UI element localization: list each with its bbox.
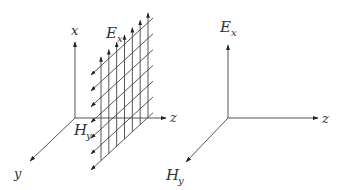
h-label-sub: y [85, 130, 92, 141]
hy-axis-arrow [186, 118, 228, 162]
x-axis-label: x [71, 23, 79, 38]
h-field-label: H y [73, 121, 92, 141]
h-field-arrow [91, 65, 153, 122]
h-field-arrow [91, 81, 153, 138]
h-field-arrow [91, 97, 153, 154]
em-wave-diagram: x z y E x H y E x z H y [0, 0, 347, 190]
ex-label-main: E [219, 18, 231, 36]
z-label-right: z [321, 111, 329, 126]
e-field-label: E x [105, 24, 123, 44]
left-figure: x z y E x H y [13, 13, 177, 181]
hy-label-right: H y [165, 166, 184, 186]
h-field-arrow [91, 50, 153, 107]
e-label-sub: x [117, 33, 123, 44]
ex-label-right: E x [219, 18, 237, 38]
hy-label-sub: y [177, 175, 184, 186]
ex-label-sub: x [231, 27, 237, 38]
h-field-arrow [91, 18, 153, 75]
z-axis-label: z [169, 110, 177, 125]
right-figure: E x z H y [165, 18, 329, 186]
e-label-main: E [105, 24, 117, 42]
y-axis-arrow [30, 118, 75, 161]
h-field-arrow [91, 113, 153, 170]
y-axis-label: y [13, 166, 22, 181]
diagram-canvas: x z y E x H y E x z H y [0, 0, 347, 190]
